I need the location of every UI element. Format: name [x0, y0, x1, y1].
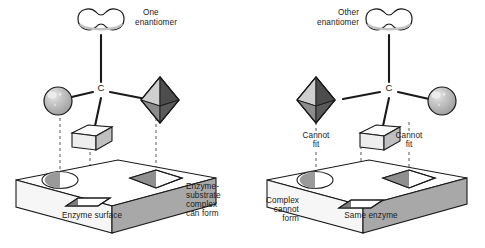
right-molecule-label-line1: Other	[281, 8, 359, 17]
bond-lines	[343, 35, 429, 126]
substituent-sphere	[44, 87, 72, 115]
substituent-peanut	[78, 9, 124, 30]
left-outcome-line1: Enzyme-	[186, 182, 244, 191]
right-outcome-line1: Complex	[243, 196, 299, 205]
right-outcome-line3: form	[243, 214, 299, 223]
substituent-peanut	[366, 9, 412, 30]
right-molecule-label-line2: enantiomer	[265, 18, 359, 27]
carbon-label: C	[377, 83, 401, 92]
left-surface-label: Enzyme surface	[22, 211, 162, 220]
substituent-sphere	[428, 87, 456, 115]
left-molecule-label-line1: One	[143, 8, 225, 17]
carbon-label: C	[89, 83, 113, 92]
left-molecule-label-line2: enantiomer	[135, 18, 230, 27]
cannot-fit-left-line1: Cannot	[288, 131, 344, 140]
left-outcome-line2: substrate	[186, 191, 244, 200]
substituent-cube	[72, 125, 112, 150]
substituent-octahedron	[141, 77, 179, 123]
figure-canvas: C One enantiomer Enzyme surface Enzyme- …	[0, 0, 485, 248]
right-outcome-line2: cannot	[243, 205, 299, 214]
panel-one-enantiomer: C One enantiomer Enzyme surface Enzyme- …	[0, 0, 242, 248]
bond-lines	[63, 35, 146, 126]
substituent-octahedron	[297, 77, 335, 123]
binding-site-oval	[297, 172, 333, 189]
left-outcome-line4: can form	[186, 209, 244, 218]
left-outcome-line3: complex	[186, 200, 244, 209]
cannot-fit-right-line1: Cannot	[381, 131, 437, 140]
panel-other-enantiomer: C Other enantiomer Cannot fit Cannot fit…	[243, 0, 485, 248]
cannot-fit-left-line2: fit	[288, 140, 344, 149]
right-surface-label: Same enzyme	[301, 211, 441, 220]
cannot-fit-right-line2: fit	[381, 140, 437, 149]
binding-site-oval	[42, 172, 78, 189]
